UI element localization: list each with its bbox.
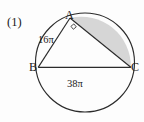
vertex-label-c: C xyxy=(131,61,139,73)
arc-length-label-ab: 16π xyxy=(38,35,54,46)
vertex-label-a: A xyxy=(65,9,74,21)
arc-length-label-bc: 38π xyxy=(67,79,83,90)
vertex-label-b: B xyxy=(29,61,37,73)
right-angle-marker-icon xyxy=(71,24,76,29)
figure-container: (1) A B C 16π 38π xyxy=(0,0,144,122)
problem-number: (1) xyxy=(7,16,22,29)
